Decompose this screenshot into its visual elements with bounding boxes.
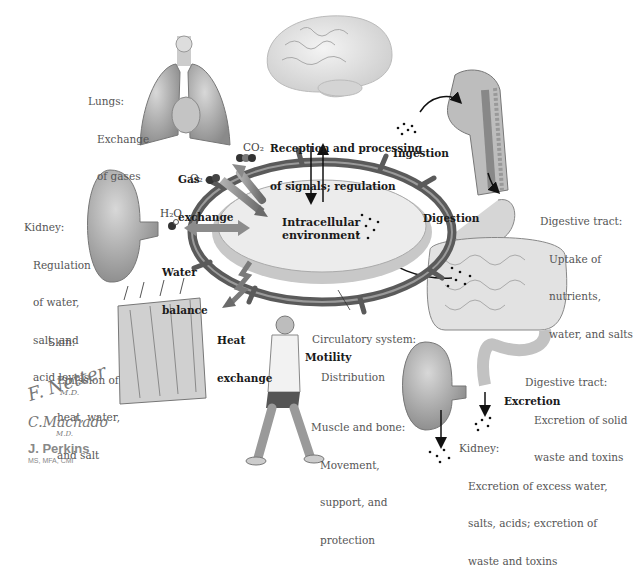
ingestion-label: Ingestion <box>393 147 449 160</box>
lungs-heading: Lungs: <box>88 95 149 108</box>
digestive-uptake-label: Digestive tract: Uptake of nutrients, wa… <box>540 190 633 353</box>
machado-signature: C.Machado <box>28 414 108 430</box>
excretion-label: Excretion <box>504 395 560 408</box>
o2-label: O₂ <box>190 172 203 184</box>
h2o-label: H₂O <box>160 207 182 219</box>
machado-suffix: M.D. <box>56 430 73 438</box>
muscle-bone-label: Muscle and bone: Movement, support, and … <box>311 396 405 559</box>
perkins-credentials: MS, MFA, CMI <box>28 457 74 464</box>
lungs-illustration <box>140 36 230 145</box>
co2-label: CO₂ <box>243 141 264 153</box>
intracellular-environment-label: Intracellular environment <box>282 216 360 242</box>
h2o-molecule <box>168 220 179 231</box>
heat-exchange-label: Heat exchange <box>217 309 272 397</box>
motility-label: Motility <box>305 351 351 364</box>
digestion-label: Digestion <box>423 212 480 225</box>
signals-label: Reception and processing of signals; reg… <box>270 117 422 205</box>
lungs-label: Lungs: Exchange of gases <box>88 70 149 195</box>
gas-exchange-label: Gas exchange <box>178 148 233 236</box>
water-balance-label: Water balance <box>162 241 208 329</box>
netter-suffix: M.D. <box>60 388 79 397</box>
kidney-excretion-label: Kidney: Excretion of excess water, salts… <box>459 417 607 569</box>
perkins-credit: J. Perkins <box>28 441 89 456</box>
head-neck-illustration <box>447 70 508 195</box>
co2-molecule <box>236 154 256 162</box>
brain-illustration <box>267 16 392 97</box>
